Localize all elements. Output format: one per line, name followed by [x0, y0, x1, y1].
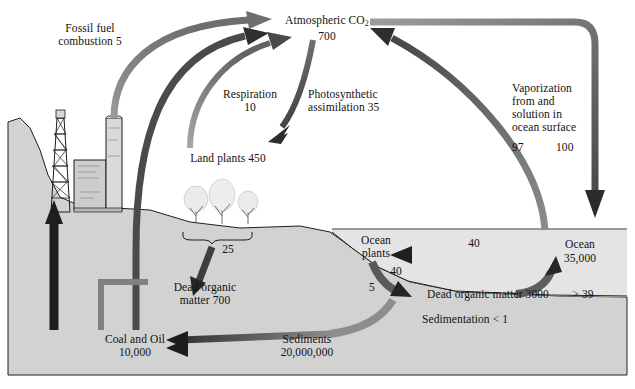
label-land-plants: Land plants 450 [168, 152, 288, 165]
label-photosynthetic-assimilation: Photosynthetic assimilation 35 [308, 88, 418, 114]
label-litterfall-value: 25 [216, 243, 240, 256]
label-dead-organic-matter-land: Dead organic matter 700 [155, 281, 255, 307]
label-ocean-plants: Ocean plants [348, 234, 404, 260]
label-sediments: Sediments 20,000,000 [252, 333, 362, 359]
tree-icon [238, 191, 258, 224]
label-vaporization-value-100: 100 [556, 141, 586, 154]
label-sedimentation: Sedimentation < 1 [400, 313, 530, 326]
tree-icon [209, 179, 235, 224]
label-fossil-fuel-combustion: Fossil fuel combustion 5 [28, 22, 152, 48]
diagram-canvas [0, 0, 635, 389]
label-ocean-value: 35,000 [550, 252, 610, 265]
label-ocean-plants-to-dead-value: 40 [384, 265, 408, 278]
label-coal-and-oil: Coal and Oil 10,000 [88, 333, 182, 359]
label-dead-organic-matter-ocean: Dead organic matter 3000 [408, 288, 568, 301]
label-atmospheric-co2-value: 700 [277, 30, 377, 43]
atmosphere-name: Atmospheric CO [285, 14, 365, 26]
label-ocean-uptake-value: 40 [462, 237, 486, 250]
label-vaporization: Vaporization from and solution in ocean … [512, 82, 602, 134]
atmosphere-subscript: 2 [365, 19, 369, 28]
label-vaporization-value-97: 97 [512, 141, 534, 154]
label-remineralization: > 39 [563, 288, 603, 301]
factory-icon [74, 116, 122, 212]
label-ocean-plants-five: 5 [364, 281, 380, 294]
carbon-cycle-diagram: Atmospheric CO2 700 Fossil fuel combusti… [0, 0, 635, 389]
tree-icon [184, 186, 208, 222]
label-ocean-name: Ocean [550, 238, 610, 251]
label-respiration: Respiration 10 [205, 88, 295, 114]
label-atmospheric-co2: Atmospheric CO2 [277, 14, 377, 30]
